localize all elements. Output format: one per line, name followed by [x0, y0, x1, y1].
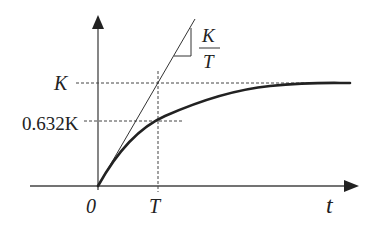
slope-triangle [174, 28, 191, 56]
x-axis-arrow-icon [344, 180, 359, 192]
y-axis [92, 15, 104, 190]
t-tick-label: T [149, 195, 162, 217]
step-response-diagram: K 0.632K 0 T t K T [0, 0, 376, 226]
slope-fraction: K T [199, 25, 220, 72]
response-curve [98, 83, 350, 186]
slope-numerator: K [201, 25, 216, 46]
slope-denominator: T [203, 51, 215, 72]
k-label: K [53, 72, 69, 94]
x-axis-label: t [326, 192, 334, 218]
x-axis [30, 180, 359, 192]
origin-label: 0 [86, 195, 96, 217]
y-axis-arrow-icon [92, 15, 104, 29]
guide-lines [76, 71, 350, 192]
632k-label: 0.632K [22, 113, 79, 134]
